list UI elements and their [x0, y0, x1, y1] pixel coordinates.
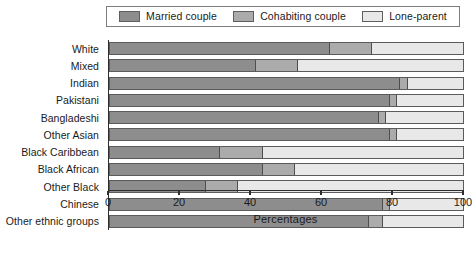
- bar-row: [109, 144, 464, 161]
- bar-segment: [110, 43, 329, 54]
- x-axis-tick: [107, 191, 108, 195]
- bar-segment: [371, 43, 463, 54]
- legend-label-married: Married couple: [146, 11, 217, 22]
- stacked-bar: [109, 163, 464, 176]
- legend-swatch-cohabiting-icon: [233, 11, 254, 22]
- x-axis-tick-labels: 020406080100: [108, 196, 463, 210]
- legend-label-lone-parent: Lone-parent: [389, 11, 447, 22]
- x-axis-tick: [320, 191, 321, 195]
- stacked-bar: [109, 77, 464, 90]
- legend-swatch-lone-parent-icon: [362, 11, 383, 22]
- bar-row: [109, 126, 464, 143]
- y-axis-label: White: [0, 40, 104, 57]
- bar-segment: [262, 164, 294, 175]
- x-axis-tick-label: 80: [386, 196, 398, 208]
- stacked-bar-chart: Married couple Cohabiting couple Lone-pa…: [0, 0, 474, 269]
- x-axis-ticks: [108, 191, 463, 195]
- x-axis-tick: [178, 191, 179, 195]
- stacked-bar: [109, 146, 464, 159]
- stacked-bar: [109, 128, 464, 141]
- bar-segment: [389, 129, 396, 140]
- y-axis-label: Pakistani: [0, 92, 104, 109]
- bar-segment: [396, 95, 463, 106]
- bar-segment: [389, 95, 396, 106]
- stacked-bar: [109, 94, 464, 107]
- chart-legend: Married couple Cohabiting couple Lone-pa…: [106, 6, 460, 27]
- bar-row: [109, 92, 464, 109]
- y-axis-label: Other Black: [0, 178, 104, 195]
- bar-row: [109, 57, 464, 74]
- y-axis-label: Other Asian: [0, 126, 104, 143]
- bar-row: [109, 40, 464, 57]
- stacked-bar: [109, 42, 464, 55]
- bar-segment: [378, 112, 385, 123]
- y-axis-label: Black African: [0, 161, 104, 178]
- x-axis-tick-label: 0: [105, 196, 111, 208]
- x-axis-tick-label: 60: [315, 196, 327, 208]
- bar-segment: [407, 78, 463, 89]
- bar-segment: [110, 78, 399, 89]
- bar-row: [109, 75, 464, 92]
- bar-segment: [262, 147, 463, 158]
- legend-swatch-married-icon: [119, 11, 140, 22]
- legend-label-cohabiting: Cohabiting couple: [260, 11, 346, 22]
- bar-row: [109, 109, 464, 126]
- bar-segment: [219, 147, 261, 158]
- bar-segment: [255, 60, 297, 71]
- bar-segment: [110, 129, 389, 140]
- x-axis-tick: [391, 191, 392, 195]
- x-axis-title: Percentages: [108, 213, 463, 225]
- legend-item-cohabiting: Cohabiting couple: [233, 11, 346, 22]
- bar-segment: [396, 129, 463, 140]
- y-axis-label: Black Caribbean: [0, 144, 104, 161]
- bar-segment: [385, 112, 463, 123]
- legend-item-lone-parent: Lone-parent: [362, 11, 447, 22]
- y-axis-label: Indian: [0, 75, 104, 92]
- y-axis-label: Chinese: [0, 195, 104, 212]
- stacked-bar: [109, 111, 464, 124]
- y-axis-label: Mixed: [0, 57, 104, 74]
- y-axis-label: Bangladeshi: [0, 109, 104, 126]
- x-axis-tick-label: 40: [244, 196, 256, 208]
- legend-item-married: Married couple: [119, 11, 217, 22]
- bar-segment: [294, 164, 463, 175]
- bar-segment: [110, 95, 389, 106]
- bar-segment: [329, 43, 371, 54]
- bar-segment: [110, 112, 378, 123]
- bar-segment: [399, 78, 406, 89]
- x-axis-tick: [249, 191, 250, 195]
- bar-segment: [297, 60, 463, 71]
- x-axis-tick-label: 20: [173, 196, 185, 208]
- x-axis-tick: [462, 191, 463, 195]
- y-axis-category-labels: WhiteMixedIndianPakistaniBangladeshiOthe…: [0, 40, 104, 230]
- y-axis-label: Other ethnic groups: [0, 213, 104, 230]
- bar-segment: [110, 60, 255, 71]
- bar-segment: [110, 164, 262, 175]
- bar-segment: [110, 147, 219, 158]
- stacked-bar: [109, 59, 464, 72]
- x-axis-tick-label: 100: [454, 196, 472, 208]
- bar-row: [109, 161, 464, 178]
